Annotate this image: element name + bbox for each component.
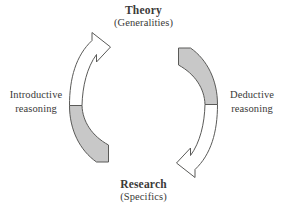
- label-research: Research (Specifics): [0, 177, 287, 204]
- label-theory-subtitle: (Generalities): [0, 17, 287, 30]
- right-arrow-shaded-segment: [179, 48, 218, 105]
- left-arrow-shaded-segment: [70, 106, 109, 163]
- label-deductive-reasoning: Deductive reasoning: [219, 88, 285, 116]
- left-arrow-outline-segment: [70, 33, 111, 106]
- right-arrow-outline-segment: [177, 105, 218, 178]
- label-introductive-reasoning-line2: reasoning: [2, 102, 70, 116]
- label-theory: Theory (Generalities): [0, 3, 287, 30]
- label-deductive-reasoning-line2: reasoning: [219, 102, 285, 116]
- label-introductive-reasoning: Introductive reasoning: [2, 88, 70, 116]
- left-arrow-upward: [70, 33, 111, 163]
- label-research-title: Research: [0, 177, 287, 191]
- label-introductive-reasoning-line1: Introductive: [2, 88, 70, 102]
- label-deductive-reasoning-line1: Deductive: [219, 88, 285, 102]
- label-research-subtitle: (Specifics): [0, 191, 287, 204]
- right-arrow-downward: [177, 48, 218, 178]
- label-theory-title: Theory: [0, 3, 287, 17]
